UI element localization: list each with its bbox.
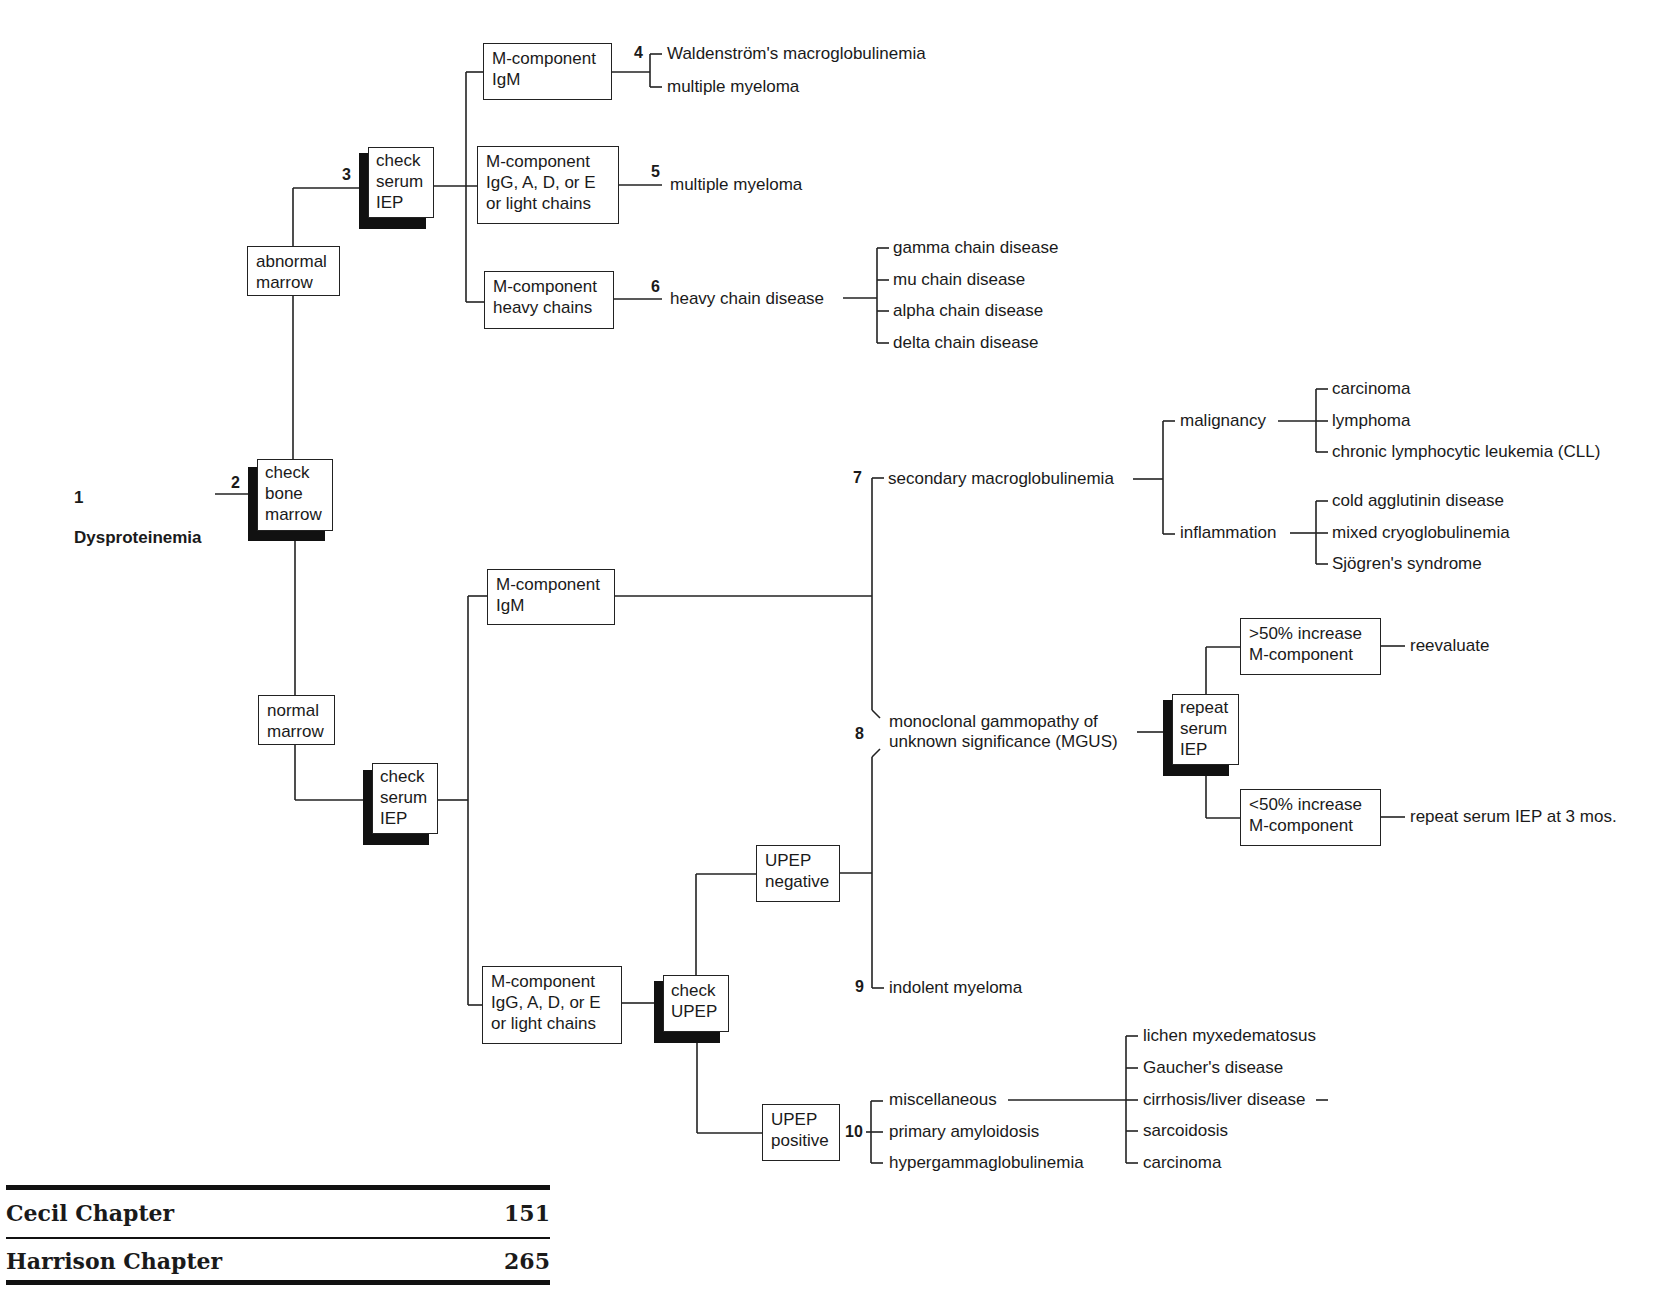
reference-value: 151 <box>504 1200 550 1226</box>
root-node: 1 Dysproteinemia <box>74 468 202 548</box>
reference-value: 265 <box>504 1248 550 1274</box>
mgus-label: monoclonal gammopathy of unknown signifi… <box>889 712 1118 752</box>
malignancy-item: carcinoma <box>1332 379 1410 399</box>
step-number-5: 5 <box>651 163 660 181</box>
step-number-7: 7 <box>853 469 862 487</box>
repeat-serum-iep-box[interactable]: repeat serum IEP <box>1172 694 1239 765</box>
outcome-waldenstrom: Waldenström's macroglobulinemia <box>667 44 926 64</box>
rule-top <box>6 1185 550 1190</box>
step-number-2: 2 <box>231 474 240 492</box>
lt50-increase-box[interactable]: <50% increase M-component <box>1240 789 1381 846</box>
upep-pos-outcome: hypergammaglobulinemia <box>889 1153 1084 1173</box>
normal-marrow-box[interactable]: normal marrow <box>258 695 335 745</box>
m-component-heavy-chains-box[interactable]: M-component heavy chains <box>484 271 614 329</box>
step-number-10: 10 <box>845 1123 863 1141</box>
rule-middle <box>6 1237 550 1239</box>
inflammation-item: cold agglutinin disease <box>1332 491 1504 511</box>
m-component-igg-top-box[interactable]: M-component IgG, A, D, or E or light cha… <box>477 146 619 224</box>
inflammation-item: Sjögren's syndrome <box>1332 554 1482 574</box>
step-number-9: 9 <box>855 978 864 996</box>
reference-cecil: Cecil Chapter 151 <box>6 1200 550 1226</box>
secondary-macroglobulinemia: secondary macroglobulinemia <box>888 469 1114 489</box>
misc-item: carcinoma <box>1143 1153 1221 1173</box>
heavy-subtype: mu chain disease <box>893 270 1025 290</box>
step-number-3: 3 <box>342 166 351 184</box>
check-bone-marrow-box[interactable]: check bone marrow <box>257 459 333 531</box>
step-number-4: 4 <box>634 44 643 62</box>
step-number-8: 8 <box>855 725 864 743</box>
upep-negative-box[interactable]: UPEP negative <box>756 845 840 902</box>
misc-item: sarcoidosis <box>1143 1121 1228 1141</box>
reference-label: Harrison Chapter <box>6 1248 222 1274</box>
check-serum-iep-bottom-box[interactable]: check serum IEP <box>372 763 438 834</box>
m-component-igg-bottom-box[interactable]: M-component IgG, A, D, or E or light cha… <box>482 966 622 1044</box>
inflammation-label: inflammation <box>1180 523 1276 543</box>
outcome-reevaluate: reevaluate <box>1410 636 1489 656</box>
outcome-multiple-myeloma-igm: multiple myeloma <box>667 77 799 97</box>
heavy-subtype: gamma chain disease <box>893 238 1058 258</box>
heavy-subtype: alpha chain disease <box>893 301 1043 321</box>
heavy-subtype: delta chain disease <box>893 333 1039 353</box>
m-component-igm-top-box[interactable]: M-component IgM <box>483 43 612 100</box>
upep-pos-outcome: primary amyloidosis <box>889 1122 1039 1142</box>
rule-bottom <box>6 1280 550 1285</box>
inflammation-item: mixed cryoglobulinemia <box>1332 523 1510 543</box>
reference-harrison: Harrison Chapter 265 <box>6 1248 550 1274</box>
indolent-myeloma: indolent myeloma <box>889 978 1022 998</box>
outcome-repeat-serum-iep: repeat serum IEP at 3 mos. <box>1410 807 1617 827</box>
misc-item: Gaucher's disease <box>1143 1058 1283 1078</box>
outcome-heavy-chain-disease: heavy chain disease <box>670 289 824 309</box>
abnormal-marrow-box[interactable]: abnormal marrow <box>247 246 340 296</box>
misc-item: cirrhosis/liver disease <box>1143 1090 1306 1110</box>
reference-label: Cecil Chapter <box>6 1200 174 1226</box>
check-serum-iep-top-box[interactable]: check serum IEP <box>368 147 434 218</box>
malignancy-item: lymphoma <box>1332 411 1410 431</box>
step-number-6: 6 <box>651 278 660 296</box>
outcome-multiple-myeloma-igg: multiple myeloma <box>670 175 802 195</box>
root-label: Dysproteinemia <box>74 528 202 547</box>
check-upep-box[interactable]: check UPEP <box>663 975 729 1032</box>
misc-item: lichen myxedematosus <box>1143 1026 1316 1046</box>
malignancy-item: chronic lymphocytic leukemia (CLL) <box>1332 442 1600 462</box>
root-number: 1 <box>74 488 83 507</box>
upep-positive-box[interactable]: UPEP positive <box>762 1104 840 1161</box>
gt50-increase-box[interactable]: >50% increase M-component <box>1240 618 1381 675</box>
upep-pos-outcome: miscellaneous <box>889 1090 997 1110</box>
m-component-igm-bottom-box[interactable]: M-component IgM <box>487 569 615 625</box>
malignancy-label: malignancy <box>1180 411 1266 431</box>
